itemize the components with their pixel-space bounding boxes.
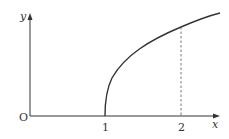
graph: O y x 1 2 [0,0,229,139]
y-axis-label: y [19,10,27,23]
y-axis-arrow-icon [28,13,33,20]
curve [105,13,220,116]
x-tick-1: 1 [102,121,109,134]
x-tick-2: 2 [178,121,185,134]
x-axis-label: x [212,118,219,131]
origin-label: O [19,111,28,124]
